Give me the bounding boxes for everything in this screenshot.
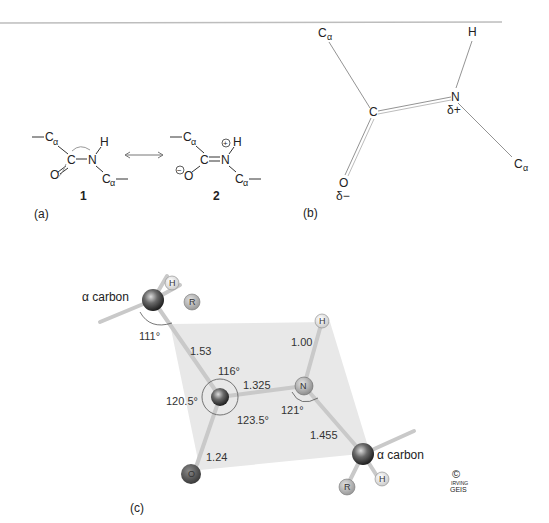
panel-c-atoms: H R H N O R H α carbon α carbon 1.53 1.3… xyxy=(0,0,549,523)
svg-text:R: R xyxy=(344,482,351,492)
bond-length-ca-c: 1.53 xyxy=(190,345,211,357)
r-group-atom-left-alpha: R xyxy=(184,294,200,310)
angle-ca-left: 111° xyxy=(139,330,160,342)
hydrogen-atom-on-n: H xyxy=(315,314,329,328)
svg-text:R: R xyxy=(189,297,196,307)
svg-text:H: H xyxy=(319,316,326,326)
svg-text:O: O xyxy=(188,469,195,479)
angle-c-top: 116° xyxy=(218,365,240,377)
angle-c-bottom: 123.5° xyxy=(237,414,269,426)
svg-text:H: H xyxy=(169,278,176,288)
hydrogen-atom-left-alpha: H xyxy=(165,276,179,290)
copyright-mark: © IRVING GEIS xyxy=(450,468,468,493)
angle-n: 121° xyxy=(281,404,304,416)
nitrogen-atom: N xyxy=(295,377,313,395)
svg-text:H: H xyxy=(379,474,386,484)
bond-length-n-h: 1.00 xyxy=(291,336,312,348)
oxygen-atom: O xyxy=(181,464,201,484)
hydrogen-atom-right-alpha: H xyxy=(375,472,389,486)
bond-length-c-n: 1.325 xyxy=(243,379,271,391)
svg-text:N: N xyxy=(300,381,307,391)
bond-length-n-ca: 1.455 xyxy=(310,429,338,441)
svg-text:©: © xyxy=(452,468,460,480)
r-group-atom-right-alpha: R xyxy=(339,479,355,495)
alpha-carbon-left-label: α carbon xyxy=(82,290,129,304)
alpha-carbon-right-label: α carbon xyxy=(377,448,424,462)
angle-c-left: 120.5° xyxy=(166,395,198,407)
svg-text:GEIS: GEIS xyxy=(450,486,467,493)
panel-c-label: (c) xyxy=(130,501,144,515)
bond-length-c-o: 1.24 xyxy=(206,451,227,463)
